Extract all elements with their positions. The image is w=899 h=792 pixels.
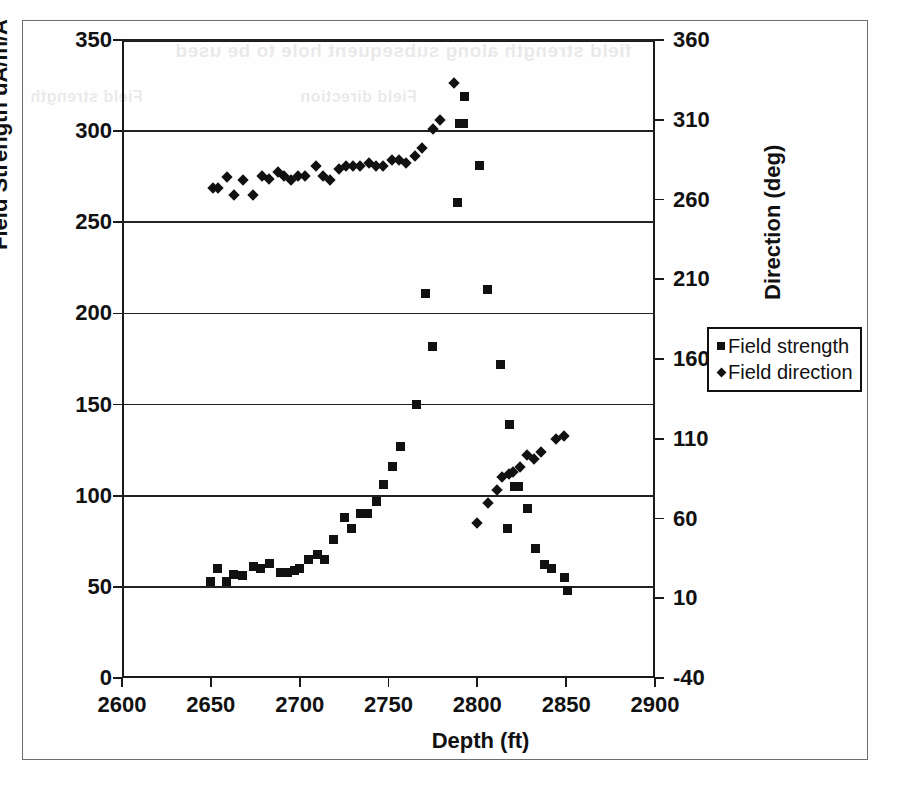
data-point-square <box>459 119 468 128</box>
x-axis-title-text: Depth (ft) <box>432 728 530 753</box>
data-point-square <box>421 289 430 298</box>
x-axis-tick-label: 2900 <box>631 692 680 718</box>
y-axis-right-tick-label: 210 <box>673 266 710 292</box>
data-point-diamond <box>536 446 547 457</box>
x-axis-title: Depth (ft) <box>0 728 899 754</box>
data-point-square <box>396 442 405 451</box>
y-axis-right-tick-label: 360 <box>673 27 710 53</box>
data-point-diamond <box>310 160 321 171</box>
data-point-square <box>295 564 304 573</box>
data-point-diamond <box>299 170 310 181</box>
data-point-square <box>372 497 381 506</box>
data-point-square <box>428 342 437 351</box>
y-axis-left-tick-label: 150 <box>75 392 112 418</box>
data-point-square <box>363 509 372 518</box>
x-axis-tick-label: 2800 <box>453 692 502 718</box>
data-point-square <box>388 462 397 471</box>
y-axis-right-tick-label: 260 <box>673 187 710 213</box>
y-axis-right-tick <box>655 597 664 599</box>
data-point-square <box>347 524 356 533</box>
data-point-square <box>496 360 505 369</box>
plot-area <box>122 40 655 678</box>
y-axis-right-tick-label: 60 <box>673 506 697 532</box>
data-point-square <box>340 513 349 522</box>
gridline <box>122 130 655 132</box>
x-axis-tick-label: 2700 <box>275 692 324 718</box>
data-point-diamond <box>427 124 438 135</box>
x-axis-tick <box>299 678 301 687</box>
gridline <box>122 404 655 406</box>
x-axis-tick <box>388 678 390 687</box>
x-axis-tick <box>654 678 656 687</box>
diamond-marker-icon <box>714 369 728 376</box>
gridline <box>122 39 655 41</box>
data-point-square <box>503 524 512 533</box>
gridline <box>122 495 655 497</box>
x-axis-tick-labels: 2600265027002750280028502900 <box>122 692 655 722</box>
y-axis-left-tick-label: 350 <box>75 27 112 53</box>
x-axis-tick <box>565 678 567 687</box>
x-axis-tick-label: 2600 <box>98 692 147 718</box>
y-axis-left-tick <box>113 313 122 315</box>
data-point-diamond <box>228 189 239 200</box>
chart-legend: Field strengthField direction <box>707 327 862 392</box>
data-point-diamond <box>248 189 259 200</box>
y-axis-right-tick-label: 10 <box>673 585 697 611</box>
data-point-square <box>412 400 421 409</box>
data-point-square <box>206 577 215 586</box>
y-axis-right-tick-label: 310 <box>673 107 710 133</box>
gridline <box>122 221 655 223</box>
data-point-square <box>514 482 523 491</box>
legend-item: Field strength <box>714 333 853 359</box>
y-axis-left-title: Field Strength uA/m/A <box>0 19 13 250</box>
gridline <box>122 586 655 588</box>
legend-item-label: Field strength <box>728 335 849 358</box>
data-point-square <box>547 564 556 573</box>
data-point-square <box>329 535 338 544</box>
y-axis-right-tick <box>655 518 664 520</box>
square-marker-icon <box>714 342 728 350</box>
data-point-diamond <box>491 484 502 495</box>
data-point-square <box>213 564 222 573</box>
data-point-diamond <box>434 114 445 125</box>
data-point-square <box>505 420 514 429</box>
y-axis-left-tick-label: 250 <box>75 209 112 235</box>
y-axis-left-tick-label: 200 <box>75 300 112 326</box>
y-axis-left-tick-label: 300 <box>75 118 112 144</box>
data-point-diamond <box>472 518 483 529</box>
data-point-diamond <box>237 175 248 186</box>
y-axis-left-tick <box>113 404 122 406</box>
data-point-square <box>229 570 238 579</box>
x-axis-tick-label: 2750 <box>364 692 413 718</box>
y-axis-left-line <box>122 40 124 678</box>
data-point-diamond <box>377 160 388 171</box>
y-axis-left-tick-label: 0 <box>100 665 112 691</box>
y-axis-right-title: Direction (deg) <box>760 145 786 300</box>
y-axis-left-tick <box>113 586 122 588</box>
y-axis-left-tick <box>113 221 122 223</box>
data-point-square <box>563 586 572 595</box>
data-point-square <box>320 555 329 564</box>
data-point-diamond <box>417 143 428 154</box>
gridline <box>122 313 655 315</box>
y-axis-right-tick <box>655 199 664 201</box>
y-axis-left-tick <box>113 39 122 41</box>
data-point-square <box>453 198 462 207</box>
y-axis-right-tick-label: 110 <box>673 426 709 452</box>
x-axis-tick-label: 2850 <box>542 692 591 718</box>
data-point-square <box>475 161 484 170</box>
data-point-square <box>460 92 469 101</box>
x-axis-tick-label: 2650 <box>186 692 235 718</box>
y-axis-right-tick <box>655 677 664 679</box>
y-axis-right-tick <box>655 119 664 121</box>
data-point-square <box>379 480 388 489</box>
data-point-square <box>531 544 540 553</box>
data-point-square <box>238 571 247 580</box>
x-axis-tick <box>210 678 212 687</box>
y-axis-right-tick <box>655 39 664 41</box>
y-axis-right-tick <box>655 438 664 440</box>
y-axis-right-tick-label: 160 <box>673 346 710 372</box>
data-point-square <box>560 573 569 582</box>
y-axis-left-tick-labels: 050100150200250300350 <box>28 40 112 678</box>
data-point-diamond <box>449 77 460 88</box>
